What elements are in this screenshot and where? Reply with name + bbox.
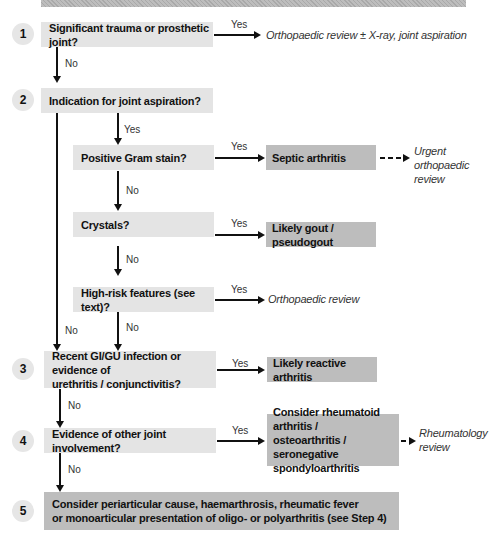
header-banner	[41, 0, 466, 7]
step-3-no-line	[59, 389, 61, 422]
step-5-line-2: or monoarticular presentation of oligo- …	[52, 511, 387, 525]
gram-stain-no-line	[117, 171, 119, 205]
orthopaedic-review-text: Orthopaedic review	[268, 292, 359, 306]
step-2-yes-line	[117, 113, 119, 139]
urgent-line-1: Urgent	[414, 144, 469, 158]
step-3-question-line-1: Recent GI/GU infection or evidence of	[52, 349, 216, 377]
crystals-yes-arrow	[215, 234, 259, 236]
step-3-yes-arrow	[217, 369, 259, 371]
step-1-question: Significant trauma or prosthetic joint?	[41, 22, 213, 47]
arrow-head-icon	[403, 154, 410, 162]
reactive-arthritis-result: Likely reactive arthritis	[267, 357, 377, 382]
step-1-yes-label: Yes	[231, 19, 247, 30]
high-risk-no-label: No	[126, 322, 139, 333]
step-4-yes-arrow	[217, 440, 259, 442]
step-5-conclusion: Consider periarticular cause, haemarthro…	[44, 492, 399, 530]
step-3-yes-label: Yes	[232, 358, 248, 369]
step-4-yes-label: Yes	[232, 425, 248, 436]
gram-stain-no-label: No	[126, 185, 139, 196]
step-2-badge: 2	[12, 89, 34, 111]
high-risk-yes-arrow	[215, 299, 259, 301]
step-4-no-line	[59, 453, 61, 486]
step-1-no-label: No	[65, 58, 78, 69]
urgent-review-text: Urgent orthopaedic review	[414, 144, 469, 186]
gout-result: Likely gout / pseudogout	[266, 222, 376, 247]
crystals-no-line	[117, 246, 119, 270]
arrow-head-icon	[258, 296, 265, 304]
rheumatoid-result: Consider rheumatoid arthritis / osteoart…	[267, 414, 399, 466]
urgent-line-3: review	[414, 172, 469, 186]
gram-stain-yes-arrow	[215, 157, 259, 159]
high-risk-no-line	[117, 312, 119, 344]
arrow-head-icon	[258, 154, 265, 162]
step-3-question: Recent GI/GU infection or evidence of ur…	[44, 351, 216, 388]
rheumatoid-line-1: Consider rheumatoid arthritis /	[273, 405, 399, 433]
rheumatoid-line-3: spondyloarthritis	[273, 461, 359, 475]
step-3-badge: 3	[12, 358, 34, 380]
crystals-no-label: No	[126, 254, 139, 265]
step-5-line-1: Consider periarticular cause, haemarthro…	[52, 497, 359, 511]
step-4-question: Evidence of other joint involvement?	[44, 428, 216, 453]
arrow-down-icon	[56, 485, 64, 492]
step-1-no-line	[56, 47, 58, 76]
crystals-yes-label: Yes	[231, 218, 247, 229]
step-5-badge: 5	[12, 500, 34, 522]
step-2-no-label: No	[65, 325, 78, 336]
step-2-no-line	[56, 113, 58, 344]
step-4-no-label: No	[68, 464, 81, 475]
step-2-yes-label: Yes	[124, 124, 140, 135]
rheumatology-review-text: Rheumatology review	[419, 426, 488, 454]
septic-dashed-arrow	[380, 157, 404, 159]
high-risk-yes-label: Yes	[231, 284, 247, 295]
step-3-question-line-2: urethritis / conjunctivitis?	[52, 377, 181, 391]
step-1-outcome: Orthopaedic review ± X-ray, joint aspira…	[266, 28, 467, 42]
arrow-head-icon	[258, 231, 265, 239]
arrow-down-icon	[53, 76, 61, 83]
crystals-question: Crystals?	[73, 212, 214, 237]
gram-stain-yes-label: Yes	[231, 141, 247, 152]
step-2-question: Indication for joint aspiration?	[41, 88, 213, 113]
arrow-head-icon	[258, 366, 265, 374]
urgent-line-2: orthopaedic	[414, 158, 469, 172]
arrow-down-icon	[114, 138, 122, 145]
arrow-down-icon	[114, 269, 122, 276]
rheumatology-line-2: review	[419, 440, 488, 454]
rheumatology-line-1: Rheumatology	[419, 426, 488, 440]
arrow-head-icon	[258, 437, 265, 445]
gram-stain-question: Positive Gram stain?	[73, 145, 214, 170]
step-1-badge: 1	[12, 23, 34, 45]
step-1-yes-arrow	[214, 34, 255, 36]
arrow-head-icon	[254, 31, 261, 39]
rheumatoid-line-2: osteoarthritis / seronegative	[273, 433, 399, 461]
high-risk-question: High-risk features (see text)?	[73, 287, 214, 312]
rheumatology-dashed-arrow	[401, 440, 409, 442]
step-3-no-label: No	[68, 400, 81, 411]
septic-arthritis-result: Septic arthritis	[266, 145, 376, 170]
step-4-badge: 4	[12, 430, 34, 452]
arrow-down-icon	[114, 204, 122, 211]
arrow-head-icon	[409, 437, 416, 445]
